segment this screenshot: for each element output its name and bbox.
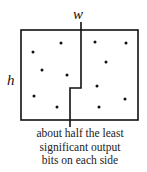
caption: about half the least significant output … xyxy=(18,127,142,168)
bounding-box xyxy=(21,30,138,120)
caption-line: bits on each side xyxy=(18,154,142,168)
height-label: h xyxy=(7,73,15,88)
points-right xyxy=(94,41,128,109)
width-label: w xyxy=(73,7,83,22)
caption-line: significant output xyxy=(18,141,142,155)
partition-line xyxy=(70,22,81,127)
caption-line: about half the least xyxy=(18,127,142,141)
points-left xyxy=(32,42,69,109)
